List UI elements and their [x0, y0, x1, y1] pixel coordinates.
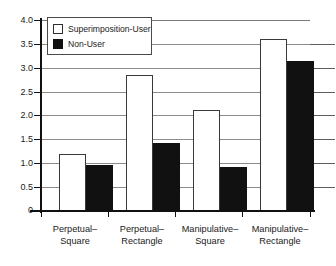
y-tick-label-0: 0: [3, 206, 33, 215]
bar-nonuser-manipulative-rectangle: [287, 61, 314, 211]
y-tick-label-2-0: 2.0: [3, 111, 33, 120]
legend-label: Superimposition-User: [68, 25, 151, 34]
category-label-line1: Perpetual–: [120, 224, 164, 234]
legend-item-non-user: Non-User: [53, 37, 151, 51]
bar-chart: 4.0 3.5 3.0 2.5 2.0 1.5 1.0 0.5 0: [0, 0, 336, 266]
x-tick-1: [108, 212, 109, 217]
bar-nonuser-perpetual-square: [86, 165, 113, 211]
y-tick-label-1-5: 1.5: [3, 135, 33, 144]
category-label-line1: Perpetual–: [53, 224, 97, 234]
x-tick-4: [310, 212, 311, 217]
y-axis-labels: 4.0 3.5 3.0 2.5 2.0 1.5 1.0 0.5 0: [0, 0, 33, 266]
y-tick-label-0-5: 0.5: [3, 183, 33, 192]
bar-user-perpetual-rectangle: [126, 75, 153, 211]
legend-label: Non-User: [68, 40, 105, 49]
bar-nonuser-perpetual-rectangle: [153, 143, 180, 211]
category-label-line1: Manipulative–: [182, 224, 239, 234]
x-tick-3: [242, 212, 243, 217]
y-tick-label-2-5: 2.5: [3, 88, 33, 97]
category-label-line2: Rectangle: [232, 236, 328, 248]
chart-legend: Superimposition-User Non-User: [47, 17, 152, 55]
x-tick-0: [41, 212, 42, 217]
bar-nonuser-manipulative-square: [220, 167, 247, 211]
category-label-line1: Manipulative–: [252, 224, 309, 234]
bar-user-manipulative-square: [193, 110, 220, 211]
x-axis-line: [30, 210, 315, 212]
y-tick-label-3-0: 3.0: [3, 64, 33, 73]
legend-item-superimposition-user: Superimposition-User: [53, 22, 151, 36]
x-tick-2: [175, 212, 176, 217]
y-tick-label-3-5: 3.5: [3, 40, 33, 49]
bar-user-perpetual-square: [59, 154, 86, 211]
y-axis-line: [40, 18, 42, 213]
y-tick-label-4-0: 4.0: [3, 16, 33, 25]
y-tick-label-1-0: 1.0: [3, 159, 33, 168]
black-square-swatch-icon: [53, 39, 63, 49]
white-square-swatch-icon: [53, 24, 63, 34]
bar-user-manipulative-rectangle: [260, 39, 287, 211]
category-label-manipulative-rectangle: Manipulative– Rectangle: [232, 224, 328, 247]
right-tick-3-5: [310, 44, 335, 45]
